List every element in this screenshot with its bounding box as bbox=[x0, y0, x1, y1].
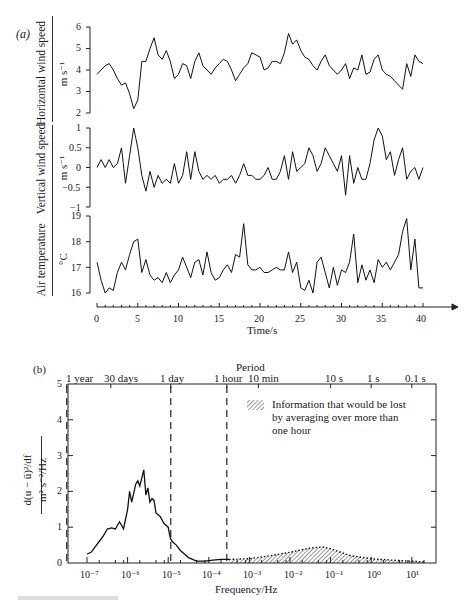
panel-b-axes bbox=[67, 384, 436, 563]
figure-canvas bbox=[0, 0, 468, 603]
panel-a-axes bbox=[86, 27, 458, 310]
series-line-1 bbox=[97, 128, 423, 195]
series-line-2 bbox=[97, 219, 423, 293]
low-frequency-spectrum-line bbox=[87, 470, 229, 561]
figure-caption-cutoff bbox=[18, 596, 118, 600]
series-line-0 bbox=[97, 34, 423, 109]
legend-hatch-swatch bbox=[247, 400, 264, 410]
panel-a-series bbox=[97, 34, 423, 294]
panel-b-series bbox=[87, 470, 424, 563]
